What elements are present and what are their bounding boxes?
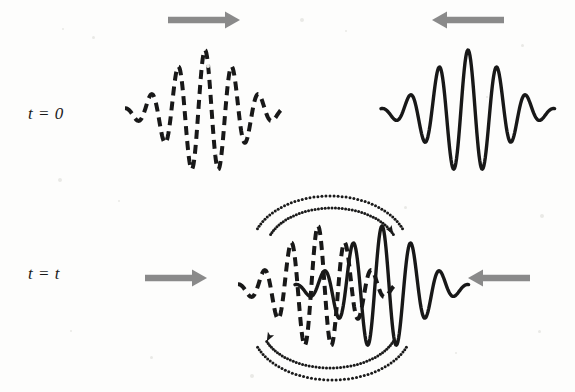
- arrow-right-icon: [168, 12, 240, 29]
- wave-packet-dashed: [125, 50, 285, 169]
- time-label-t-zero: t = 0: [28, 104, 64, 124]
- arrow-left-icon: [432, 12, 504, 29]
- time-label-t-t: t = t: [28, 264, 60, 284]
- row-tt: [145, 195, 530, 382]
- arrow-left-icon: [468, 270, 530, 287]
- figure-canvas: [0, 0, 575, 392]
- interaction-arc-bottom: [265, 340, 394, 370]
- arc-arrowhead-icon: [264, 332, 274, 343]
- row-t0: [125, 12, 555, 170]
- wave-packet-collision-figure: [0, 0, 575, 392]
- wave-packet-solid: [381, 50, 555, 169]
- interaction-arc-top: [269, 207, 395, 237]
- arrow-right-icon: [145, 270, 207, 287]
